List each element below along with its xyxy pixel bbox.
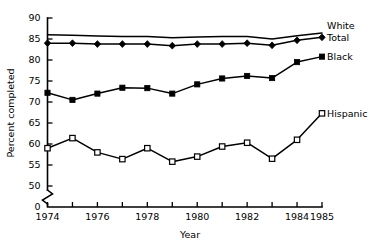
series-black — [45, 54, 325, 102]
series-white — [48, 33, 323, 39]
data-point-marker — [294, 37, 300, 44]
data-point-marker — [144, 41, 150, 48]
x-tick-label: 1978 — [135, 211, 159, 222]
series-line — [48, 57, 323, 100]
x-axis-line — [48, 204, 323, 207]
data-point-marker — [244, 140, 249, 145]
data-point-marker — [169, 42, 175, 49]
y-axis-tick-labels: 5055606570758085900 — [28, 12, 40, 212]
x-tick-label: 1976 — [85, 211, 109, 222]
data-point-marker — [269, 42, 275, 49]
y-tick-label: 65 — [28, 117, 40, 128]
chart-figure: 5055606570758085900 19741976197819801982… — [0, 0, 369, 245]
data-point-marker — [244, 40, 250, 47]
y-tick-label: 90 — [28, 12, 40, 23]
x-axis-tick-labels: 1974197619781980198219841985 — [35, 211, 334, 222]
data-point-marker — [294, 137, 299, 142]
data-point-marker — [319, 34, 325, 41]
data-point-marker — [45, 90, 50, 95]
y-tick-label: 80 — [28, 54, 40, 65]
legend-label-hispanic: Hispanic — [327, 108, 367, 119]
data-point-marker — [45, 146, 50, 151]
data-point-marker — [120, 156, 125, 161]
data-point-marker — [95, 150, 100, 155]
series-line — [48, 113, 323, 161]
data-point-marker — [319, 111, 324, 116]
x-tick-label: 1985 — [310, 211, 334, 222]
data-point-marker — [245, 73, 250, 78]
data-point-marker — [170, 91, 175, 96]
x-tick-label: 1974 — [35, 211, 59, 222]
legend-label-white: White — [327, 20, 355, 31]
data-point-marker — [44, 40, 50, 47]
data-point-marker — [119, 41, 125, 48]
series-line — [48, 33, 323, 39]
y-axis-break-zigzag — [43, 190, 53, 204]
data-point-marker — [294, 60, 299, 65]
data-point-marker — [120, 85, 125, 90]
data-point-marker — [69, 40, 75, 47]
data-point-marker — [220, 76, 225, 81]
data-point-marker — [219, 41, 225, 48]
data-point-marker — [145, 146, 150, 151]
data-point-marker — [269, 156, 274, 161]
y-tick-label: 55 — [28, 159, 40, 170]
data-point-marker — [170, 159, 175, 164]
y-tick-label: 50 — [28, 180, 40, 191]
legend-label-black: Black — [327, 51, 353, 62]
legend-label-total: Total — [326, 32, 349, 43]
data-point-marker — [269, 75, 274, 80]
y-tick-label: 75 — [28, 75, 40, 86]
data-series-group — [44, 33, 325, 164]
data-point-marker — [145, 86, 150, 91]
x-tick-label: 1982 — [235, 211, 259, 222]
data-point-marker — [70, 97, 75, 102]
x-tick-label: 1984 — [285, 211, 309, 222]
series-legend: WhiteTotalBlackHispanic — [326, 20, 367, 119]
y-tick-label: 60 — [28, 138, 40, 149]
data-point-marker — [195, 154, 200, 159]
series-hispanic — [45, 111, 325, 165]
data-point-marker — [194, 41, 200, 48]
axes — [43, 18, 323, 207]
x-tick-label: 1980 — [185, 211, 209, 222]
x-axis-title: Year — [179, 229, 200, 240]
y-axis-title: Percent completed — [5, 68, 16, 157]
data-point-marker — [95, 91, 100, 96]
y-tick-label: 70 — [28, 96, 40, 107]
data-point-marker — [94, 41, 100, 48]
data-point-marker — [195, 82, 200, 87]
data-point-marker — [219, 144, 224, 149]
line-chart-canvas: 5055606570758085900 19741976197819801982… — [0, 0, 369, 245]
data-point-marker — [319, 54, 324, 59]
y-tick-label: 85 — [28, 33, 40, 44]
data-point-marker — [70, 135, 75, 140]
